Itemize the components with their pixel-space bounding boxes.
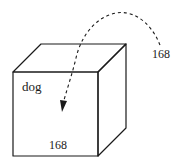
cube <box>13 44 126 156</box>
arrow-source-label: 168 <box>152 47 170 61</box>
cube-front-label: dog <box>22 79 42 94</box>
cube-top-face <box>13 44 126 72</box>
cube-diagram: dog 168 168 <box>0 0 182 167</box>
arrow-head-icon <box>60 100 67 112</box>
cube-front-value: 168 <box>49 138 67 152</box>
cube-right-face <box>98 44 126 156</box>
